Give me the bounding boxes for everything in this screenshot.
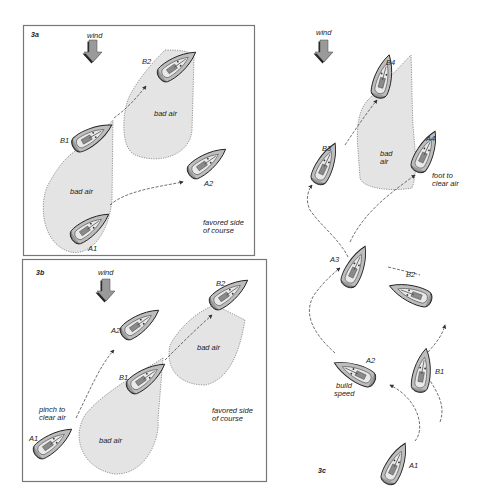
boat-B2 — [206, 273, 253, 313]
boat-label: A2 — [110, 326, 121, 335]
boat-label: B1 — [60, 136, 69, 145]
annotation: speed — [334, 389, 355, 398]
wind-arrow-icon — [83, 40, 103, 64]
wind-label: wind — [316, 28, 332, 37]
zone-label: bad air — [70, 187, 93, 196]
annotation: clear air — [39, 413, 66, 422]
boat-label: A1 — [408, 461, 418, 470]
wind-label: wind — [98, 268, 114, 277]
boat-label: B1 — [119, 373, 128, 382]
annotation: of course — [203, 226, 234, 235]
wind-arrow-icon — [96, 279, 116, 303]
annotation: of course — [212, 414, 243, 423]
boat-label: A2 — [203, 179, 214, 188]
wind-arrow-icon — [314, 40, 334, 64]
boat-label: B4 — [386, 58, 395, 67]
panel-3c: wind bad air B4 B3 A4 A3 B2 B1 A2 A1 foo… — [307, 28, 459, 487]
panel-label: 3b — [36, 269, 45, 276]
boat-label: B2 — [406, 270, 416, 279]
boat-label: B3 — [322, 144, 332, 153]
boat-label: B2 — [216, 279, 226, 288]
zone-label: bad air — [154, 109, 177, 118]
panel-label: 3a — [31, 31, 39, 38]
sailing-diagram: 3a wind bad air bad air B2 B1 A2 A1 favo… — [0, 0, 478, 504]
boat-A2 — [117, 303, 164, 343]
boat-label: A1 — [28, 434, 38, 443]
boat-label: B2 — [142, 57, 152, 66]
annotation: clear air — [432, 179, 459, 188]
zone-label: bad air — [197, 343, 220, 352]
wind-label: wind — [87, 31, 103, 40]
boat-A1 — [378, 440, 413, 488]
boat-label: A4 — [425, 134, 435, 143]
boat-A2 — [184, 142, 231, 182]
panel-3a: 3a wind bad air bad air B2 B1 A2 A1 favo… — [24, 26, 255, 256]
zone-label: bad air — [99, 436, 122, 445]
boat-A3 — [338, 243, 373, 291]
boat-label: B1 — [435, 367, 444, 376]
boat-label: A3 — [329, 255, 340, 264]
boat-B1 — [410, 347, 435, 394]
panel-label: 3c — [318, 467, 326, 474]
boat-label: A1 — [87, 244, 97, 253]
panel-3b: 3b wind bad air bad air B2 A2 B1 A1 pinc… — [23, 260, 267, 482]
zone-label: air — [380, 157, 389, 166]
boat-label: A2 — [365, 356, 376, 365]
boat-B2 — [386, 277, 434, 309]
